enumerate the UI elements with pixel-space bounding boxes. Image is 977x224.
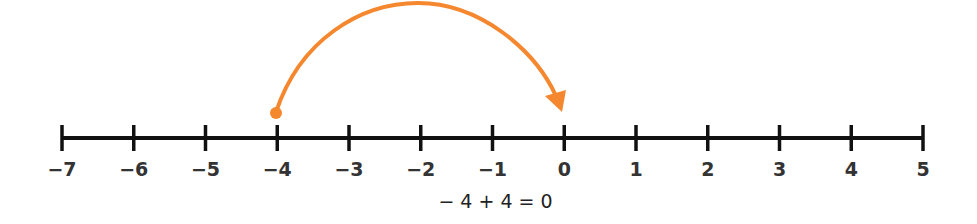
tick-label: −6 [114,158,154,180]
tick-label: −2 [401,158,441,180]
tick-label: 5 [903,158,943,180]
tick-label: 1 [616,158,656,180]
start-dot-icon [270,107,282,119]
jump-arrow [270,3,566,119]
tick-label: −5 [186,158,226,180]
tick-label: −1 [473,158,513,180]
tick-label: 2 [688,158,728,180]
tick-label: 0 [544,158,584,180]
tick-label: −7 [42,158,82,180]
tick-label: −3 [329,158,369,180]
arrowhead-icon [545,90,566,112]
tick-label: 3 [760,158,800,180]
number-line-diagram: −7−6−5−4−3−2−1012345 − 4 + 4 = 0 [0,0,977,224]
tick-label: 4 [831,158,871,180]
tick-label: −4 [257,158,297,180]
number-line-axis [62,125,923,151]
equation-label: − 4 + 4 = 0 [0,190,977,212]
